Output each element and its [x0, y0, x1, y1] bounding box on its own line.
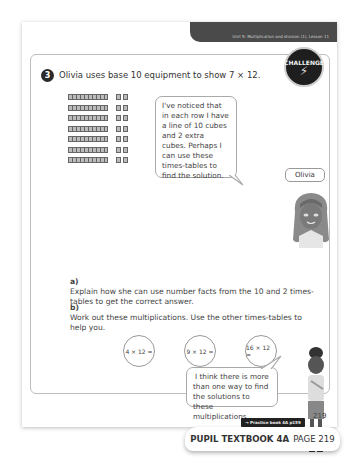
part-a-label: a)	[70, 277, 80, 287]
one-cube-icon	[123, 136, 128, 142]
speech-tail-icon	[229, 175, 245, 187]
base-ten-cubes	[68, 92, 128, 166]
page-number: 219	[313, 412, 326, 420]
one-cube-icon	[116, 157, 121, 163]
textbook-page-tab: PUPIL TEXTBOOK 4A PAGE 219	[185, 427, 340, 451]
textbook-label: PUPIL TEXTBOOK 4A	[190, 434, 289, 444]
olivia-speech-text: I've noticed that in each row I have a l…	[162, 101, 229, 180]
challenge-badge: CHALLENGE ⚡	[284, 47, 324, 87]
olivia-character-icon	[289, 190, 333, 248]
cube-row	[68, 155, 128, 166]
unit-lesson-banner: Unit 5: Multiplication and division (1),…	[190, 22, 337, 42]
cube-row	[68, 145, 128, 156]
cube-row	[68, 103, 128, 114]
cube-row	[68, 92, 128, 103]
one-cube-icon	[116, 105, 121, 111]
one-cube-icon	[123, 147, 128, 153]
one-cube-icon	[123, 157, 128, 163]
ten-rod-icon	[68, 105, 108, 111]
second-speech-text: I think there is more than one way to fi…	[193, 372, 269, 421]
question-number: 3	[41, 69, 54, 82]
ten-rod-icon	[68, 136, 108, 142]
one-cube-icon	[116, 136, 121, 142]
speech-tail-icon	[259, 355, 283, 369]
question-card: 3 Olivia uses base 10 equipment to show …	[30, 54, 330, 394]
part-b-label: b)	[70, 303, 80, 313]
practice-book-reference: → Practice book 4A p159	[241, 418, 305, 427]
ten-rod-icon	[68, 115, 108, 121]
second-speech-bubble: I think there is more than one way to fi…	[186, 367, 278, 407]
question-text: Olivia uses base 10 equipment to show 7 …	[59, 70, 260, 80]
ten-rod-icon	[68, 147, 108, 153]
lightning-bolt-icon: ⚡	[300, 66, 308, 76]
one-cube-icon	[123, 126, 128, 132]
unit-lesson-text: Unit 5: Multiplication and division (1),…	[233, 34, 329, 39]
ten-rod-icon	[68, 94, 108, 100]
one-cube-icon	[123, 115, 128, 121]
ten-rod-icon	[68, 126, 108, 132]
part-b-text: Work out these multiplications. Use the …	[70, 313, 320, 333]
multiplication-circle-2: 9 × 12 =	[184, 335, 216, 367]
one-cube-icon	[123, 94, 128, 100]
one-cube-icon	[116, 94, 121, 100]
part-b: b)Work out these multiplications. Use th…	[70, 303, 329, 333]
cube-row	[68, 124, 128, 135]
one-cube-icon	[116, 115, 121, 121]
cube-row	[68, 113, 128, 124]
ten-rod-icon	[68, 157, 108, 163]
textbook-page: Unit 5: Multiplication and division (1),…	[22, 22, 337, 427]
olivia-speech-bubble: I've noticed that in each row I have a l…	[155, 96, 237, 178]
multiplication-circle-1: 4 × 12 =	[123, 335, 155, 367]
one-cube-icon	[116, 126, 121, 132]
one-cube-icon	[116, 147, 121, 153]
name-tag-olivia: Olivia	[285, 168, 325, 182]
one-cube-icon	[123, 105, 128, 111]
page-label: PAGE 219	[293, 434, 335, 444]
cube-row	[68, 134, 128, 145]
